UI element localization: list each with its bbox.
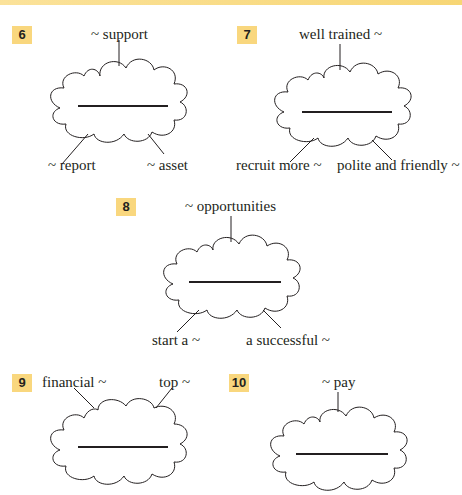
exercise-number: 9 bbox=[12, 374, 32, 392]
word-left-bottom: start a ~ bbox=[152, 331, 200, 349]
word-top: well trained ~ bbox=[299, 25, 382, 43]
word-cloud-shape bbox=[262, 392, 422, 495]
word-cloud-shape bbox=[40, 388, 200, 495]
exercise-number: 10 bbox=[229, 374, 249, 392]
word-left-bottom: ~ report bbox=[48, 156, 96, 174]
word-cloud-shape bbox=[268, 44, 428, 174]
header-band bbox=[0, 0, 462, 5]
exercise-number: 6 bbox=[12, 26, 32, 44]
word-right-bottom: ~ asset bbox=[147, 156, 188, 174]
word-right-bottom: polite and friendly ~ bbox=[337, 156, 460, 174]
word-top: ~ pay bbox=[322, 373, 356, 391]
word-cloud-shape bbox=[155, 216, 315, 346]
word-cloud-shape bbox=[40, 40, 200, 170]
exercise-number: 7 bbox=[237, 26, 257, 44]
exercise-number: 8 bbox=[116, 198, 136, 216]
word-left-bottom: recruit more ~ bbox=[236, 156, 322, 174]
word-right-bottom: a successful ~ bbox=[246, 331, 330, 349]
word-top: ~ opportunities bbox=[185, 197, 276, 215]
